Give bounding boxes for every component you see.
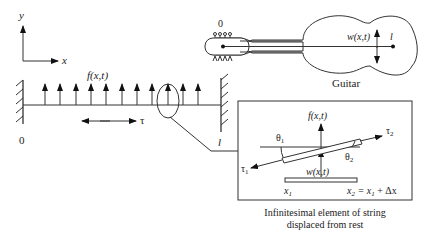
tuning-pegs-bottom	[213, 56, 232, 61]
right-end-label: l	[218, 136, 221, 148]
guitar-end-label: l	[390, 31, 393, 42]
zoom-connector-line	[170, 117, 240, 151]
right-wall	[221, 74, 228, 132]
guitar-drawing	[205, 16, 417, 75]
x-axis-label: x	[61, 54, 67, 66]
tuning-pegs-top	[214, 33, 232, 39]
guitar-displacement-label: w(x,t)	[347, 31, 371, 43]
guitar-caption: Guitar	[332, 77, 360, 89]
string-vibration-diagram: y x 0 l f(x,t)	[0, 0, 421, 246]
inset-caption-line1: Infinitesimal element of string	[264, 207, 385, 218]
coordinate-axes: y x	[18, 9, 67, 66]
guitar-origin-label: 0	[218, 18, 223, 29]
guitar-nut-point	[221, 45, 225, 49]
y-axis-label: y	[18, 9, 24, 21]
tension-label: τ	[140, 114, 145, 126]
rest-element-segment	[285, 178, 357, 182]
inset-caption-line2: displaced from rest	[287, 219, 364, 230]
left-end-label: 0	[19, 134, 25, 146]
guitar-bridge-point	[391, 45, 395, 49]
inset-force-label: f(x,t)	[308, 110, 328, 122]
inset-displacement-label: w(x,t)	[306, 166, 330, 178]
left-wall	[16, 80, 23, 124]
force-label: f(x,t)	[87, 69, 108, 82]
